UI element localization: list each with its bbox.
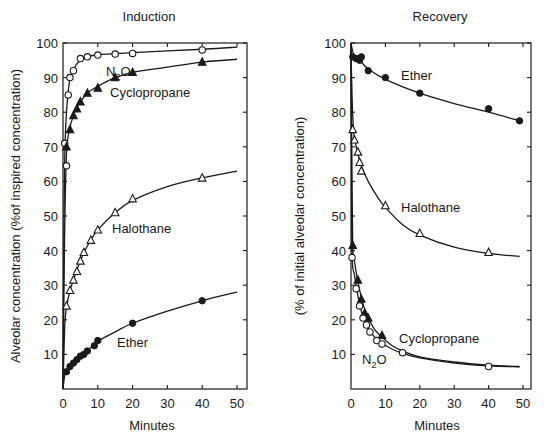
x-tick-label: 20 <box>413 396 427 411</box>
data-point-n2o <box>65 92 71 98</box>
x-axis-title-induction: Minutes <box>129 418 175 433</box>
data-point-n2o <box>129 50 135 56</box>
series-label: Cyclopropane <box>110 85 190 100</box>
x-tick-label: 40 <box>195 396 209 411</box>
y-tick-label: 100 <box>324 36 346 51</box>
data-point-ether <box>95 337 101 343</box>
x-tick-label: 20 <box>125 396 139 411</box>
data-point-cyclopropane <box>349 241 357 248</box>
x-tick-label: 0 <box>347 396 354 411</box>
data-point-halothane <box>349 125 357 132</box>
panel-title-induction: Induction <box>123 9 176 24</box>
series-label: Cyclopropane <box>399 331 479 346</box>
data-point-halothane <box>77 257 85 264</box>
data-point-ether <box>516 118 522 124</box>
data-point-ether <box>365 67 371 73</box>
data-point-n2o <box>199 47 205 53</box>
data-point-halothane <box>416 229 424 236</box>
y-tick-label: 70 <box>332 140 346 155</box>
data-point-halothane <box>485 248 493 255</box>
series-label: Halothane <box>401 200 460 215</box>
curve-halothane <box>63 171 237 389</box>
x-tick-label: 10 <box>378 396 392 411</box>
y-tick-label: 10 <box>44 347 58 362</box>
y-tick-label: 10 <box>332 347 346 362</box>
curve-halothane <box>351 50 520 257</box>
data-point-n2o <box>379 341 385 347</box>
x-tick-label: 0 <box>59 396 66 411</box>
axis-ticks-recovery: 01020304050102030405060708090100 <box>324 36 531 411</box>
x-tick-label: 10 <box>91 396 105 411</box>
data-point-n2o <box>363 322 369 328</box>
x-tick-label: 50 <box>230 396 244 411</box>
y-tick-label: 60 <box>44 174 58 189</box>
series-label: N2O <box>362 352 387 370</box>
panel-title-recovery: Recovery <box>413 9 468 24</box>
data-point-ether <box>485 106 491 112</box>
data-point-cyclopropane <box>70 111 78 118</box>
data-point-ether <box>382 74 388 80</box>
data-point-n2o <box>70 67 76 73</box>
y-tick-label: 80 <box>44 105 58 120</box>
y-tick-label: 80 <box>332 105 346 120</box>
y-tick-label: 30 <box>44 278 58 293</box>
data-point-n2o <box>77 55 83 61</box>
data-point-halothane <box>129 195 137 202</box>
data-point-n2o <box>353 285 359 291</box>
data-point-ether <box>84 348 90 354</box>
series-labels-induction: N2OCyclopropaneHalothaneEther <box>106 64 190 350</box>
data-point-n2o <box>349 254 355 260</box>
y-tick-label: 60 <box>332 174 346 189</box>
data-point-halothane <box>70 276 78 283</box>
data-point-n2o <box>67 74 73 80</box>
y-tick-label: 40 <box>332 244 346 259</box>
series-label: N2O <box>106 64 131 82</box>
data-point-cyclopropane <box>66 125 74 132</box>
curve-ether <box>63 292 237 389</box>
data-point-halothane <box>356 158 364 165</box>
recovery-panel: Recovery 0102030405010203040506070809010… <box>292 9 531 433</box>
data-point-halothane <box>111 208 119 215</box>
data-point-halothane <box>80 248 88 255</box>
data-point-n2o <box>95 52 101 58</box>
data-point-n2o <box>367 329 373 335</box>
y-tick-label: 50 <box>44 209 58 224</box>
data-point-cyclopropane <box>73 105 81 112</box>
data-point-halothane <box>358 167 366 174</box>
series-labels-recovery: EtherHalothaneCyclopropaneN2O <box>362 68 479 370</box>
data-point-n2o <box>485 363 491 369</box>
y-axis-title-recovery: (% of initial alveolar concentration) <box>292 117 307 316</box>
y-tick-label: 90 <box>44 71 58 86</box>
data-point-ether <box>199 298 205 304</box>
y-tick-label: 40 <box>44 244 58 259</box>
data-point-n2o <box>399 349 405 355</box>
data-point-n2o <box>360 315 366 321</box>
y-tick-label: 50 <box>332 209 346 224</box>
x-tick-label: 50 <box>516 396 530 411</box>
data-point-n2o <box>63 163 69 169</box>
data-point-n2o <box>112 51 118 57</box>
y-tick-label: 90 <box>332 71 346 86</box>
data-point-cyclopropane <box>84 89 92 96</box>
y-tick-label: 20 <box>44 313 58 328</box>
x-tick-label: 30 <box>447 396 461 411</box>
data-point-halothane <box>73 267 81 274</box>
data-point-n2o <box>356 303 362 309</box>
data-point-ether <box>129 320 135 326</box>
y-tick-label: 100 <box>36 36 58 51</box>
data-point-n2o <box>84 54 90 60</box>
series-label: Ether <box>401 68 433 83</box>
data-point-halothane <box>87 236 95 243</box>
figure: Induction 010203040501020304050607080901… <box>0 0 547 439</box>
data-point-halothane <box>66 286 74 293</box>
y-tick-label: 30 <box>332 278 346 293</box>
x-tick-label: 30 <box>160 396 174 411</box>
data-point-ether <box>358 54 364 60</box>
induction-panel: Induction 010203040501020304050607080901… <box>8 9 247 433</box>
x-axis-title-recovery: Minutes <box>414 418 460 433</box>
x-tick-label: 40 <box>481 396 495 411</box>
series-label: Ether <box>117 335 149 350</box>
y-tick-label: 20 <box>332 313 346 328</box>
curve-ether <box>351 43 520 121</box>
series-label: Halothane <box>112 221 171 236</box>
